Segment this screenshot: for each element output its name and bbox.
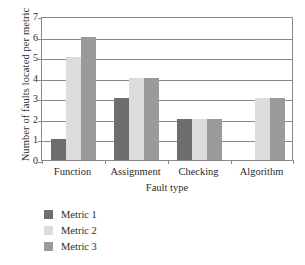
x-tickmark [293,160,294,164]
x-axis-title: Fault type [41,182,293,193]
legend-label: Metric 3 [61,241,97,252]
bar[interactable] [129,78,144,160]
legend-item[interactable]: Metric 3 [44,238,97,254]
bar[interactable] [192,119,207,160]
legend-label: Metric 2 [61,225,97,236]
x-tick-label-function: Function [41,165,104,179]
legend-label: Metric 1 [61,209,97,220]
bar-chart-figure: Number of faults located per metric 0123… [0,0,305,265]
y-tick-label: 7 [24,12,38,22]
bar-group [177,18,222,160]
legend-swatch-icon [44,210,53,219]
chart-legend: Metric 1Metric 2Metric 3 [44,206,97,254]
x-tick-label-assignment: Assignment [104,165,167,179]
bar[interactable] [270,98,285,160]
legend-item[interactable]: Metric 2 [44,222,97,238]
plot-area [41,17,293,161]
y-tick-label: 3 [24,94,38,104]
bar-group [240,18,285,160]
bar-group [51,18,96,160]
bar[interactable] [51,139,66,160]
y-tick-label: 4 [24,74,38,84]
legend-swatch-icon [44,242,53,251]
bar[interactable] [255,98,270,160]
legend-swatch-icon [44,226,53,235]
bar[interactable] [66,57,81,160]
bar[interactable] [207,119,222,160]
y-tick-label: 0 [24,156,38,166]
y-tick-label: 5 [24,53,38,63]
x-axis-tick-labels: FunctionAssignmentCheckingAlgorithm [41,165,293,181]
x-tickmark [105,160,106,164]
bar[interactable] [81,37,96,160]
bar[interactable] [114,98,129,160]
bars-layer [42,18,292,160]
bar-group [114,18,159,160]
y-tick-label: 2 [24,115,38,125]
x-tickmark [231,160,232,164]
y-tick-label: 1 [24,135,38,145]
legend-item[interactable]: Metric 1 [44,206,97,222]
x-tick-label-algorithm: Algorithm [230,165,293,179]
bar[interactable] [144,78,159,160]
x-tick-label-checking: Checking [167,165,230,179]
bar[interactable] [177,119,192,160]
y-axis-tick-labels: 01234567 [24,17,38,161]
x-tickmark [42,160,43,164]
x-tickmark [168,160,169,164]
y-tick-label: 6 [24,33,38,43]
